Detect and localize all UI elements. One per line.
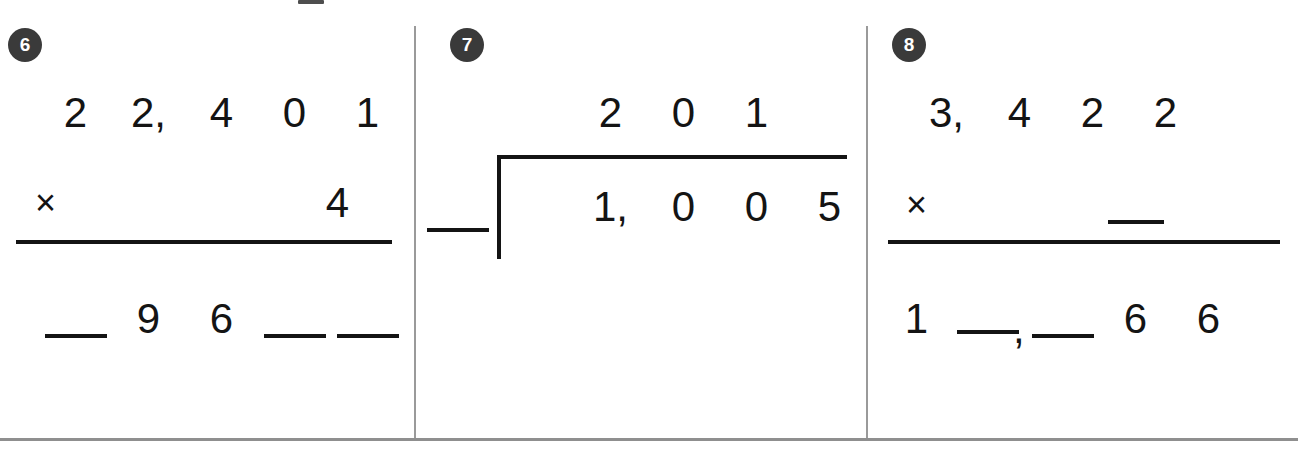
answer-blank-with-comma[interactable]: , [953, 296, 1026, 342]
digit: 6 [1099, 298, 1172, 340]
multiplication-sign: × [880, 187, 953, 223]
answer-blank[interactable] [1026, 296, 1099, 342]
digit-placeholder: 0 [155, 182, 228, 224]
digit: 4 [301, 182, 374, 224]
problem-7-dividend-row: 1, 0 0 5 [574, 186, 866, 228]
problem-7: 7 2 0 1 1, 0 0 5 [416, 0, 866, 438]
digit: 1 [720, 92, 793, 134]
digit: 9 [112, 298, 185, 340]
digit: 2 [39, 92, 112, 134]
digit: 2 [1056, 92, 1129, 134]
problem-number-badge-8: 8 [892, 28, 926, 62]
digit: 6 [185, 298, 258, 340]
worksheet-page: 6 2 2, 4 0 1 × 0 0 0 4 9 6 7 2 0 [0, 0, 1298, 457]
digit: 2 [1129, 92, 1202, 134]
problem-8-multiplicand-row: 3, 4 2 2 [910, 92, 1202, 134]
digit: 1, [574, 186, 647, 228]
digit-placeholder: 0 [953, 184, 1026, 226]
problem-6-answer-row: 9 6 [39, 296, 404, 342]
multiplier-blank[interactable] [1099, 182, 1172, 228]
problem-number-badge-6: 6 [8, 28, 42, 62]
digit: 0 [647, 92, 720, 134]
digit: 6 [1172, 298, 1245, 340]
problem-6: 6 2 2, 4 0 1 × 0 0 0 4 9 6 [0, 0, 414, 438]
digit: 1 [880, 298, 953, 340]
bottom-divider [0, 438, 1298, 441]
answer-blank[interactable] [39, 296, 112, 342]
thousands-comma: , [1013, 308, 1025, 350]
problem-8-answer-row: 1 , 6 6 [880, 296, 1245, 342]
answer-blank[interactable] [331, 296, 404, 342]
division-bracket-horizontal [497, 155, 847, 159]
digit-placeholder: 0 [82, 182, 155, 224]
division-bracket-vertical [497, 155, 501, 259]
digit: 1 [331, 92, 404, 134]
multiplication-sign: × [9, 185, 82, 221]
digit: 0 [647, 186, 720, 228]
answer-blank[interactable] [258, 296, 331, 342]
problem-6-multiplicand-row: 2 2, 4 0 1 [39, 92, 404, 134]
digit: 5 [793, 186, 866, 228]
digit-placeholder: 0 [1026, 184, 1099, 226]
digit: 4 [185, 92, 258, 134]
digit: 2, [112, 92, 185, 134]
digit: 2 [574, 92, 647, 134]
problem-number-badge-7: 7 [450, 28, 484, 62]
problem-8: 8 3, 4 2 2 × 0 0 1 , 6 6 [868, 0, 1298, 438]
problem-6-multiplier-row: × 0 0 0 4 [9, 182, 374, 224]
problem-8-multiplier-row: × 0 0 [880, 182, 1172, 228]
digit: 3, [910, 92, 983, 134]
digit: 0 [258, 92, 331, 134]
digit-placeholder: 0 [228, 182, 301, 224]
problem-8-operation-rule [888, 240, 1280, 244]
divisor-blank[interactable] [427, 228, 489, 232]
problem-6-operation-rule [16, 240, 392, 244]
digit: 0 [720, 186, 793, 228]
digit: 4 [983, 92, 1056, 134]
problem-7-quotient-row: 2 0 1 [574, 92, 793, 134]
